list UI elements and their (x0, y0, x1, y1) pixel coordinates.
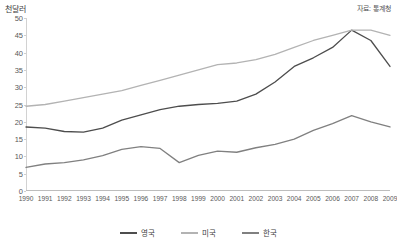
chart-legend: 영국미국한국 (0, 227, 397, 238)
x-tick-label: 2009 (383, 195, 397, 202)
series-line (26, 30, 390, 132)
y-tick-label: 35 (15, 65, 23, 74)
x-tick-label: 2004 (287, 195, 302, 202)
series-line (26, 30, 390, 106)
series-line (26, 116, 390, 168)
y-tick-mark (24, 191, 26, 192)
y-tick-label: 20 (15, 117, 23, 126)
x-tick-label: 1999 (191, 195, 206, 202)
y-tick-label: 25 (15, 100, 23, 109)
legend-item[interactable]: 영국 (120, 227, 155, 238)
y-tick-label: 30 (15, 83, 23, 92)
legend-item[interactable]: 미국 (181, 227, 216, 238)
x-tick-label: 2001 (229, 195, 244, 202)
legend-label: 한국 (263, 227, 277, 238)
y-tick-label: 5 (19, 169, 23, 178)
legend-line-swatch (242, 232, 259, 234)
x-tick-label: 1995 (114, 195, 129, 202)
line-chart: 천달러 자료: 통계청 05101520253035404550 1990199… (0, 0, 397, 242)
x-tick-label: 1997 (153, 195, 168, 202)
legend-label: 영국 (141, 227, 155, 238)
x-tick-label: 2006 (325, 195, 340, 202)
legend-line-swatch (181, 232, 198, 234)
y-tick-label: 15 (15, 135, 23, 144)
source-note: 자료: 통계청 (357, 3, 391, 13)
y-tick-label: 10 (15, 152, 23, 161)
y-tick-label: 45 (15, 31, 23, 40)
x-tick-label: 1994 (95, 195, 110, 202)
legend-item[interactable]: 한국 (242, 227, 277, 238)
series-lines (26, 18, 390, 191)
y-tick-label: 40 (15, 48, 23, 57)
y-axis-unit-label: 천달러 (5, 3, 26, 14)
x-tick-label: 1998 (172, 195, 187, 202)
legend-label: 미국 (202, 227, 216, 238)
y-tick-label: 50 (15, 14, 23, 23)
x-tick-label: 2002 (249, 195, 264, 202)
x-tick-label: 1992 (57, 195, 72, 202)
x-tick-label: 2007 (344, 195, 359, 202)
x-tick-label: 2000 (210, 195, 225, 202)
x-tick-label: 1991 (38, 195, 53, 202)
x-tick-label: 2005 (306, 195, 321, 202)
plot-area: 05101520253035404550 1990199119921993199… (26, 18, 390, 191)
legend-line-swatch (120, 232, 137, 234)
x-tick-label: 2008 (363, 195, 378, 202)
x-tick-label: 1993 (76, 195, 91, 202)
x-tick-label: 2003 (268, 195, 283, 202)
x-tick-label: 1996 (134, 195, 149, 202)
x-tick-label: 1990 (19, 195, 34, 202)
